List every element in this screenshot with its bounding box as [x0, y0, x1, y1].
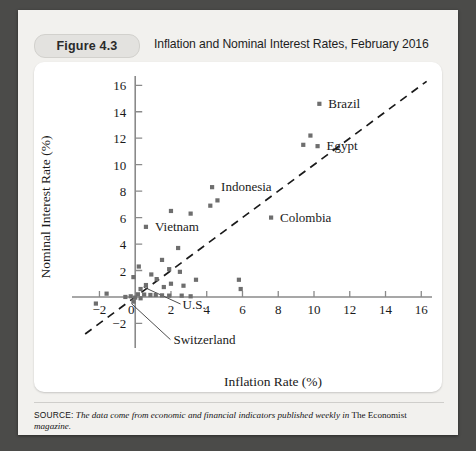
y-tick-label: 2 — [120, 264, 127, 279]
point-labels-layer: BrazilEgyptIndonesiaColombiaVietnamU.S.S… — [155, 96, 361, 347]
axis-titles-layer: Inflation Rate (%)Nominal Interest Rate … — [38, 136, 322, 389]
source-plain: The Economist — [349, 410, 406, 420]
data-point-marker — [210, 185, 214, 189]
x-tick-label: 14 — [379, 302, 393, 317]
data-point-marker — [176, 246, 180, 250]
data-point-marker — [94, 301, 98, 305]
data-point-marker — [131, 275, 135, 279]
data-point-marker — [133, 296, 137, 300]
point-label-switzerland: Switzerland — [173, 332, 236, 347]
data-point-marker — [194, 278, 198, 282]
data-point-marker — [269, 215, 273, 219]
data-point-marker — [167, 267, 171, 271]
data-point-marker — [169, 209, 173, 213]
y-tick-label: 8 — [120, 184, 127, 199]
x-tick-label: 6 — [239, 302, 246, 317]
data-point-marker — [105, 292, 109, 296]
source-italic-first: The data come from economic and financia… — [76, 410, 349, 420]
x-tick-label: 8 — [275, 302, 282, 317]
data-point-marker — [239, 287, 243, 291]
data-point-marker — [144, 283, 148, 287]
y-axis-title: Nominal Interest Rate (%) — [38, 136, 53, 279]
x-tick-label: 16 — [415, 302, 429, 317]
source-label: SOURCE: — [34, 410, 74, 420]
y-tick-label: 16 — [113, 78, 127, 93]
data-point-marker — [208, 204, 212, 208]
x-tick-label: 12 — [343, 302, 356, 317]
data-point-marker — [301, 143, 305, 147]
data-point-marker — [155, 277, 159, 281]
data-point-marker — [149, 272, 153, 276]
y-tick-label: 14 — [113, 105, 127, 120]
data-point-marker — [162, 285, 166, 289]
data-point-marker — [129, 294, 133, 298]
x-tick-label: 10 — [308, 302, 321, 317]
data-point-marker — [308, 133, 312, 137]
figure-title: Inflation and Nominal Interest Rates, Fe… — [154, 37, 429, 51]
figure-root: Figure 4.3 Inflation and Nominal Interes… — [0, 0, 476, 451]
point-label-egypt: Egypt — [327, 138, 358, 153]
y-tick-label: −2 — [112, 316, 126, 331]
data-point-marker — [160, 293, 164, 297]
y-tick-label: 6 — [120, 211, 127, 226]
data-point-marker — [237, 278, 241, 282]
scatter-plot: −22468101214160−2246810121416 BrazilEgyp… — [34, 62, 442, 392]
y-tick-label: 4 — [120, 237, 127, 252]
x-axis-title: Inflation Rate (%) — [224, 374, 322, 389]
point-label-brazil: Brazil — [328, 96, 360, 111]
figure-page-card: Figure 4.3 Inflation and Nominal Interes… — [18, 10, 458, 435]
point-label-vietnam: Vietnam — [155, 219, 199, 234]
data-point-marker — [131, 299, 135, 303]
source-italic-second: magazine. — [34, 421, 71, 431]
data-point-marker — [138, 296, 142, 300]
data-point-marker — [148, 293, 152, 297]
data-points-layer — [94, 102, 322, 306]
data-point-marker — [138, 287, 142, 291]
data-point-marker — [181, 284, 185, 288]
data-point-marker — [315, 144, 319, 148]
data-point-marker — [160, 258, 164, 262]
data-point-marker — [167, 294, 171, 298]
data-point-marker — [169, 282, 173, 286]
data-point-marker — [154, 293, 158, 297]
source-note: SOURCE: The data come from economic and … — [34, 402, 444, 432]
figure-number-badge: Figure 4.3 — [34, 34, 140, 58]
point-label-indonesia: Indonesia — [221, 179, 272, 194]
data-point-marker — [178, 270, 182, 274]
data-point-marker — [137, 264, 141, 268]
x-tick-label-zero: 0 — [128, 302, 135, 317]
data-point-marker — [215, 198, 219, 202]
figure-header: Figure 4.3 Inflation and Nominal Interes… — [18, 18, 458, 54]
data-point-marker — [142, 292, 146, 296]
point-label-us: U.S. — [183, 297, 206, 312]
leader-line-switzerland — [131, 304, 170, 340]
x-tick-label: 2 — [168, 302, 175, 317]
data-point-marker — [123, 295, 127, 299]
chart-panel: −22468101214160−2246810121416 BrazilEgyp… — [34, 62, 442, 392]
data-point-marker — [317, 102, 321, 106]
y-tick-label: 10 — [113, 158, 126, 173]
point-label-colombia: Colombia — [280, 210, 332, 225]
data-point-marker — [144, 225, 148, 229]
data-point-marker — [189, 212, 193, 216]
y-tick-label: 12 — [113, 131, 126, 146]
